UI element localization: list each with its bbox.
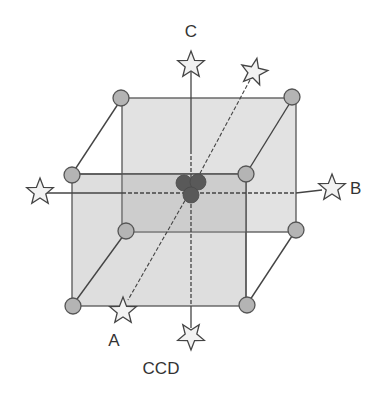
corner-point bbox=[118, 223, 134, 239]
corner-point bbox=[284, 89, 300, 105]
corner-point bbox=[64, 167, 80, 183]
corner-point bbox=[239, 297, 255, 313]
corner-point bbox=[113, 90, 129, 106]
diagram-title: CCD bbox=[143, 359, 180, 378]
star-icon bbox=[319, 174, 346, 199]
star-icon bbox=[178, 325, 205, 350]
axis-label-b: B bbox=[350, 179, 361, 198]
star-icon bbox=[27, 178, 54, 203]
axis-label-a: A bbox=[108, 331, 120, 350]
axis-label-c: C bbox=[185, 22, 197, 41]
corner-point bbox=[288, 222, 304, 238]
ccd-diagram: C B A CCD bbox=[0, 0, 381, 398]
corner-point bbox=[65, 298, 81, 314]
corner-point bbox=[238, 166, 254, 182]
star-icon bbox=[239, 56, 270, 86]
